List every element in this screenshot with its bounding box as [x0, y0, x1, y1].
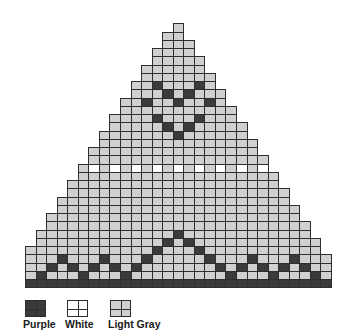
legend-label-purple: Purple: [23, 318, 56, 330]
knitting-chart-grid: [0, 0, 353, 300]
light-gray-swatch: [110, 300, 131, 317]
legend-label-white: White: [65, 318, 94, 330]
purple-swatch: [25, 300, 46, 317]
white-swatch: [67, 300, 88, 317]
purple-cell: [320, 279, 332, 288]
legend-label-light-gray: Light Gray: [108, 318, 161, 330]
